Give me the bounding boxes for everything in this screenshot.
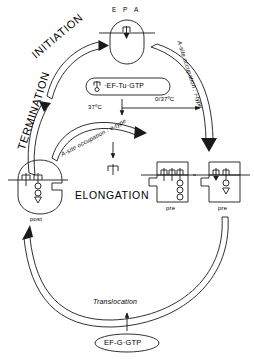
ribosome-pre-1-icon [141,162,196,202]
site-label-p: P [123,7,128,14]
trna-icon-eftu [94,81,100,92]
state-pre-1-label: pre [166,205,175,211]
trna-icon-pre1-a [161,168,167,181]
temp-left-label: 37ºC [88,104,102,110]
site-label-a: A [134,7,139,14]
elongation-label: ELONGATION [75,190,149,201]
ribosome-post-icon [8,160,68,214]
ribosome-top-icon [99,20,155,64]
translocation-arrow [22,217,228,327]
state-post-label: post [30,216,42,222]
diagram-canvas: E P A INITIATION TERMINATION ·EF-Tu·GTP … [0,0,254,359]
trna-icon-post-2 [34,173,42,203]
initiation-arrow [47,40,109,99]
site-label-e: E [112,7,119,14]
ribosome-pre-2-icon [193,162,250,202]
trna-icon-post-1 [22,173,30,186]
ef-tu-label: ·EF-Tu·GTP [104,82,144,89]
temp-right-label: 0/37ºC [155,96,174,102]
state-pre-2-label: pre [218,205,227,211]
trna-icon-pre1-b [169,168,175,181]
trna-icon-top [123,26,130,39]
ef-g-label: EF-G·GTP [104,339,141,347]
trna-icon-pre1-c [177,168,183,200]
translocation-label: Translocation [93,298,137,305]
trna-icon-pre2-a [213,168,219,181]
trna-icon-center [108,164,118,175]
trna-icon-pre2-b [223,168,230,194]
